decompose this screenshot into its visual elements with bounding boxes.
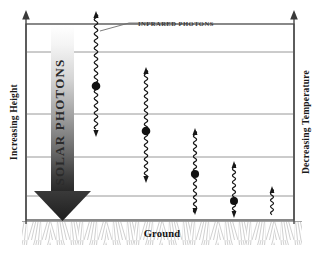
arrow-up-icon (143, 67, 148, 74)
molecule-dot (191, 170, 199, 178)
infrared-photon-5 (270, 186, 275, 215)
infrared-photons-callout: INFRARED PHOTONS (100, 20, 214, 31)
diagram-root: Increasing Height Decreasing Temperature… (0, 0, 325, 253)
solar-photons-label: SOLAR PHOTONS (52, 59, 67, 186)
infrared-photon-3 (191, 128, 199, 215)
molecule-dot (92, 82, 101, 91)
callout-label: INFRARED PHOTONS (138, 20, 214, 27)
infrared-photon-4 (230, 161, 238, 218)
left-axis: Increasing Height (9, 10, 30, 224)
left-axis-label: Increasing Height (9, 83, 19, 159)
solar-photons-arrow: SOLAR PHOTONS (34, 25, 91, 221)
photon-wave (232, 164, 235, 214)
infrared-photon-2 (142, 67, 151, 183)
arrow-up-icon (290, 10, 298, 20)
arrow-up-icon (193, 128, 198, 135)
arrow-up-icon (232, 161, 237, 168)
arrow-up-icon (270, 186, 275, 193)
diagram-canvas: Increasing Height Decreasing Temperature… (0, 0, 325, 253)
thick-down-arrow-icon (34, 191, 91, 221)
molecule-dot (230, 197, 238, 205)
photon-wave (94, 14, 98, 129)
photon-wave (144, 70, 147, 179)
right-axis: Decreasing Temperature (290, 10, 311, 224)
right-axis-label: Decreasing Temperature (301, 70, 311, 174)
arrow-down-icon (143, 176, 148, 183)
arrow-down-icon (232, 211, 237, 218)
arrow-down-icon (93, 130, 98, 137)
molecule-dot (142, 127, 151, 136)
ground-label: Ground (144, 228, 181, 239)
infrared-photon-1 (92, 11, 101, 137)
arrow-up-icon (22, 10, 30, 20)
